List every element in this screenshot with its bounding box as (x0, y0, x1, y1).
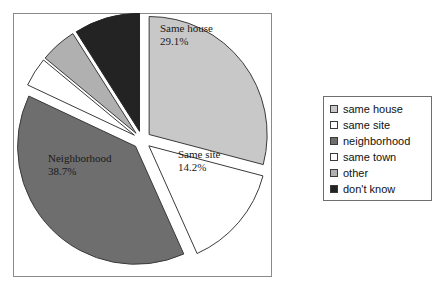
slice-label-same-house: Same house 29.1% (160, 22, 213, 48)
legend-item-label: same house (343, 103, 403, 115)
slice-label-name: Same house (160, 22, 213, 35)
slice-label-name: Same site (178, 148, 220, 161)
legend-swatch-icon (330, 121, 338, 129)
chart-legend: same housesame siteneighborhoodsame town… (323, 96, 432, 201)
legend-item[interactable]: same house (330, 101, 431, 117)
legend-item-label: neighborhood (343, 135, 410, 147)
legend-item-label: same town (343, 151, 396, 163)
slice-label-name: Neighborhood (48, 152, 112, 165)
legend-item[interactable]: don't know (330, 181, 431, 197)
legend-swatch-icon (330, 153, 338, 161)
legend-item[interactable]: other (330, 165, 431, 181)
pie-graphic (13, 13, 272, 277)
legend-item-label: don't know (343, 183, 395, 195)
slice-label-percent: 29.1% (160, 35, 213, 48)
pie-chart-figure: Same house 29.1% Same site 14.2% Neighbo… (0, 0, 445, 285)
slice-label-same-site: Same site 14.2% (178, 148, 220, 174)
legend-item-label: other (343, 167, 368, 179)
legend-item[interactable]: same town (330, 149, 431, 165)
slice-label-neighborhood: Neighborhood 38.7% (48, 152, 112, 178)
legend-swatch-icon (330, 105, 338, 113)
legend-item[interactable]: neighborhood (330, 133, 431, 149)
legend-swatch-icon (330, 137, 338, 145)
legend-item[interactable]: same site (330, 117, 431, 133)
legend-item-label: same site (343, 119, 390, 131)
slice-label-percent: 38.7% (48, 165, 112, 178)
legend-swatch-icon (330, 185, 338, 193)
legend-swatch-icon (330, 169, 338, 177)
slice-label-percent: 14.2% (178, 161, 220, 174)
